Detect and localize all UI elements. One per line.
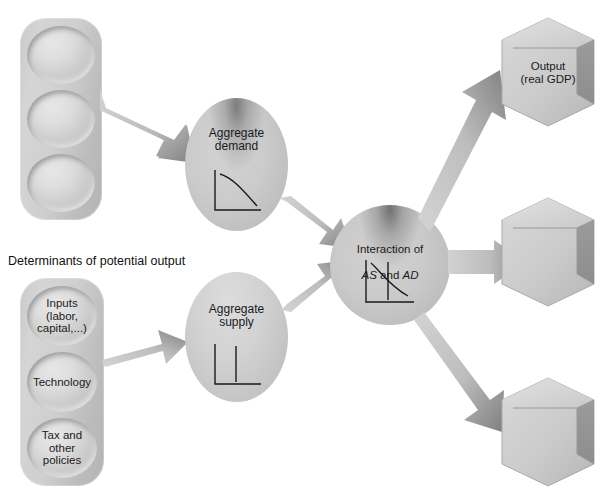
top-determinant-oval-3[interactable]: [27, 154, 95, 212]
output-hexagon-top[interactable]: Output (real GDP): [499, 16, 597, 128]
output-hexagon-middle[interactable]: [499, 196, 597, 308]
determinant-oval-technology[interactable]: Technology: [27, 352, 97, 412]
determinants-caption: Determinants of potential output: [8, 254, 185, 268]
diagram-canvas: Determinants of potential output Inputs …: [0, 0, 604, 499]
arrow-determinants-to-aggregate-supply: [100, 330, 190, 372]
determinant-label-technology: Technology: [33, 376, 91, 389]
aggregate-supply-node[interactable]: [185, 272, 288, 402]
output-hexagon-bottom[interactable]: [499, 376, 597, 488]
arrow-interaction-to-output-top: [418, 68, 510, 234]
top-determinant-oval-2[interactable]: [27, 90, 95, 148]
determinant-oval-inputs[interactable]: Inputs (labor, capital,...): [27, 286, 97, 346]
aggregate-demand-node[interactable]: [185, 98, 288, 231]
top-determinant-oval-1[interactable]: [27, 26, 95, 84]
bottom-determinants-container: Inputs (labor, capital,...) Technology T…: [20, 278, 104, 486]
determinant-oval-tax-policies[interactable]: Tax and other policies: [27, 418, 97, 478]
top-determinants-container: [20, 18, 102, 220]
determinant-label-inputs: Inputs (labor, capital,...): [37, 297, 87, 336]
determinant-label-tax-policies: Tax and other policies: [42, 429, 82, 468]
interaction-node[interactable]: [330, 205, 450, 325]
